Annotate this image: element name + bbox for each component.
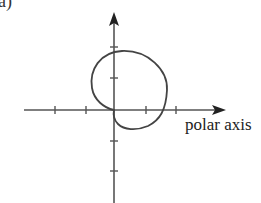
polar-axis-label: polar axis [185,115,252,135]
polar-plot [0,0,261,203]
polar-diagram: a) polar axis [0,0,261,203]
polar-curve [92,51,168,129]
part-label: a) [0,0,12,12]
